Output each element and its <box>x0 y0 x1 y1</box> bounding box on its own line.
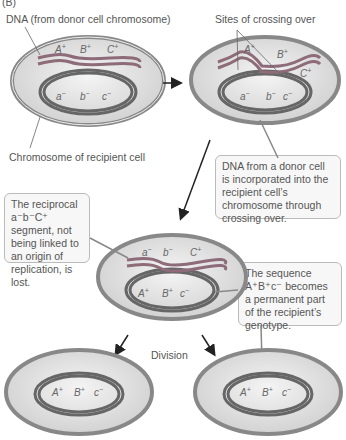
cell-crossing-over: A+ B+ C+ a− b− c− <box>191 30 339 158</box>
arrow-division-left <box>116 335 128 354</box>
daughter-cell-right: A+ B+ c− <box>195 350 341 434</box>
diagram-canvas: A+ B+ C+ a− b− c− A+ B+ C+ a− b− c− a− <box>0 0 346 440</box>
cell-after-recombination: a− b− C+ A+ B+ c− <box>90 235 246 319</box>
cell-before-crossing: A+ B+ C+ a− b− c− <box>12 27 164 148</box>
arrow-division-right <box>202 335 214 354</box>
daughter-cell-left: A+ B+ c− <box>6 350 152 434</box>
arrow-down-left <box>181 140 210 218</box>
